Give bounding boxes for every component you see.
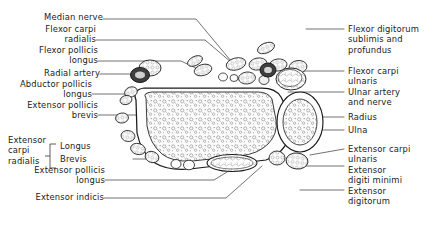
label-ulnar-artery-and-nerve: Ulnar arteryand nerve [348,87,400,108]
label-extensor-carpi-ulnaris: Extensor carpiulnaris [348,144,411,165]
label-extensor-carpi-radialis-longus: Longus [60,141,91,151]
label-extensor-digitorum: Extensordigitorum [348,186,390,207]
label-extensor-pollicis-brevis: Extensor pollicisbrevis [27,100,98,121]
label-extensor-carpi-radialis-group: Extensorcarpiradialis [8,135,46,166]
label-extensor-pollicis-longus: Extensor pollicislongus [34,165,105,186]
ulnar-artery-nerve-vessel [260,63,276,77]
label-radius: Radius [348,112,377,122]
label-radial-artery: Radial artery [44,68,100,78]
label-median-nerve: Median nerve [44,12,103,22]
figure-page: Median nerve Flexor carpiradialis Flexor… [0,0,447,226]
radius-bone [277,92,323,152]
label-flexor-carpi-ulnaris: Flexor carpiulnaris [348,66,399,87]
label-extensor-indicis: Extensor indicis [35,192,104,202]
label-flexor-pollicis-longus: Flexor pollicislongus [39,45,98,66]
label-abductor-pollicis-longus: Abductor pollicislongus [20,79,92,100]
label-flexor-carpi-radialis: Flexor carpiradialis [45,24,96,45]
label-flexor-digitorum-sublimis-profundus: Flexor digitorumsublimis andprofundus [348,24,419,55]
label-ulna: Ulna [348,125,368,135]
radial-artery-vessel [131,68,150,83]
label-extensor-carpi-radialis-brevis: Brevis [60,154,87,164]
label-extensor-digiti-minimi: Extensordigiti minimi [348,165,402,186]
muscle-compartments-top [139,40,308,90]
